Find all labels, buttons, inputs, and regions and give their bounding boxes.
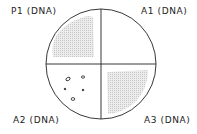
growth-a3 xyxy=(107,70,148,114)
growth-p1 xyxy=(52,16,94,57)
colonies-a2 xyxy=(64,76,84,101)
petri-plate-diagram xyxy=(0,0,197,134)
